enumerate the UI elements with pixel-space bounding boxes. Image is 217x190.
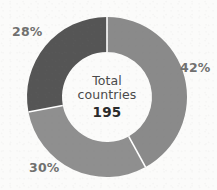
slice-label-42: 42% [180, 62, 211, 75]
center-label-line1: Total [64, 74, 150, 88]
donut-center-annotation: Total countries 195 [64, 74, 150, 120]
donut-chart: 42% 30% 28% Total countries 195 [0, 0, 217, 190]
center-total-value: 195 [64, 105, 150, 120]
slice-label-28: 28% [12, 26, 43, 39]
slice-label-30: 30% [29, 162, 60, 175]
center-label-line2: countries [64, 88, 150, 102]
